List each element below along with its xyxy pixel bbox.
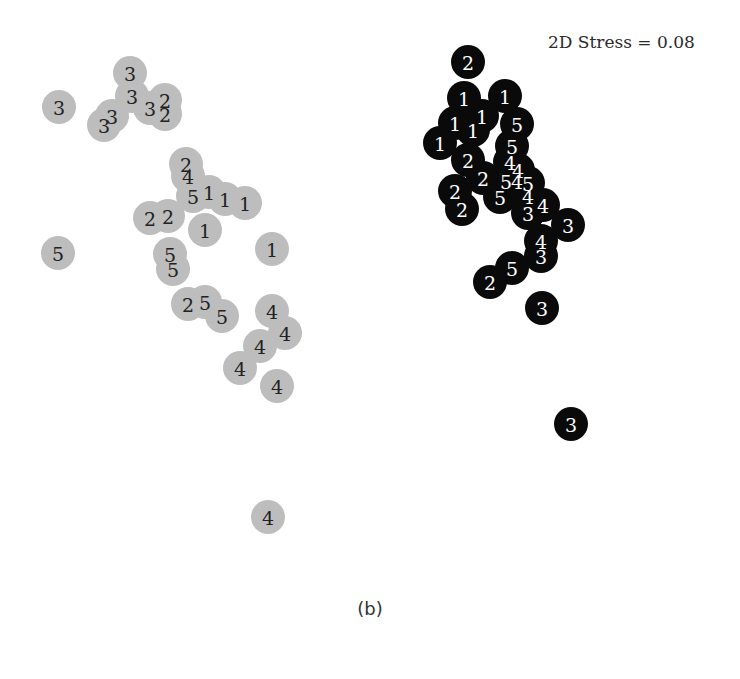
data-point-label: 3 <box>144 98 156 120</box>
data-point-label: 1 <box>458 88 470 110</box>
scatter-plot-area: 333322332451112211555255444444 211111155… <box>0 0 740 679</box>
data-point-label: 2 <box>477 168 489 190</box>
data-point-label: 3 <box>562 215 574 237</box>
data-point-label: 5 <box>506 258 518 280</box>
data-point-label: 2 <box>144 208 156 230</box>
data-point-label: 4 <box>262 507 274 529</box>
data-point-label: 3 <box>98 115 110 137</box>
data-point-label: 4 <box>182 166 194 188</box>
data-point-label: 1 <box>449 113 461 135</box>
data-point-label: 5 <box>216 306 228 328</box>
data-point-label: 2 <box>462 52 474 74</box>
data-point-label: 1 <box>499 86 511 108</box>
data-point-label: 1 <box>467 120 479 142</box>
data-point-label: 4 <box>271 376 283 398</box>
stress-annotation: 2D Stress = 0.08 <box>548 32 695 52</box>
mds-ordination-figure: 333322332451112211555255444444 211111155… <box>0 0 740 679</box>
data-point-label: 3 <box>126 86 138 108</box>
data-point-label: 2 <box>462 150 474 172</box>
data-point-label: 1 <box>203 182 215 204</box>
data-point-label: 2 <box>159 104 171 126</box>
data-point-label: 5 <box>494 187 506 209</box>
data-point-label: 1 <box>219 189 231 211</box>
data-point-label: 4 <box>266 301 278 323</box>
series-grey-points: 333322332451112211555255444444 <box>41 56 302 534</box>
data-point-label: 1 <box>266 239 278 261</box>
data-point-label: 3 <box>53 97 65 119</box>
data-point-label: 3 <box>535 246 547 268</box>
data-point-label: 5 <box>167 259 179 281</box>
data-point-label: 4 <box>537 195 549 217</box>
data-point-label: 5 <box>187 186 199 208</box>
data-point-label: 2 <box>484 272 496 294</box>
data-point-label: 4 <box>234 358 246 380</box>
data-point-label: 3 <box>522 203 534 225</box>
data-point-label: 5 <box>52 243 64 265</box>
data-point-label: 2 <box>162 206 174 228</box>
data-point-label: 3 <box>536 298 548 320</box>
data-point-label: 4 <box>254 336 266 358</box>
data-point-label: 1 <box>199 220 211 242</box>
data-point-label: 3 <box>124 63 136 85</box>
data-point-label: 5 <box>199 292 211 314</box>
data-point-label: 3 <box>565 414 577 436</box>
data-point-label: 4 <box>279 323 291 345</box>
panel-caption: (b) <box>0 598 740 619</box>
data-point-label: 5 <box>511 114 523 136</box>
data-point-label: 1 <box>239 193 251 215</box>
series-black-points: 21111115524425452542433435233 <box>423 45 588 441</box>
data-point-label: 2 <box>456 199 468 221</box>
data-point-label: 1 <box>434 133 446 155</box>
data-point-label: 2 <box>182 294 194 316</box>
